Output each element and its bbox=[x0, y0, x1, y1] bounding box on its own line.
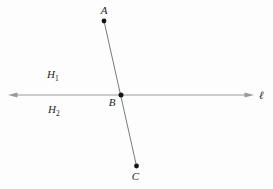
point-b-dot bbox=[119, 93, 124, 98]
label-half-plane-h2: H2 bbox=[47, 103, 60, 118]
label-h1-subscript: 1 bbox=[55, 74, 59, 83]
label-line-l: ℓ bbox=[259, 89, 264, 102]
right-arrowhead-icon bbox=[245, 92, 255, 97]
label-point-a: A bbox=[100, 4, 108, 16]
point-a-dot bbox=[102, 19, 107, 24]
left-arrowhead-icon bbox=[8, 92, 18, 97]
geometry-figure: A B C ℓ H1 H2 bbox=[0, 0, 273, 189]
geometry-diagram: A B C ℓ H1 H2 bbox=[0, 0, 273, 189]
label-h2-subscript: 2 bbox=[56, 109, 60, 118]
label-point-b: B bbox=[109, 96, 116, 108]
point-c-dot bbox=[134, 164, 139, 169]
label-half-plane-h1: H1 bbox=[46, 68, 59, 83]
label-point-c: C bbox=[132, 170, 140, 182]
